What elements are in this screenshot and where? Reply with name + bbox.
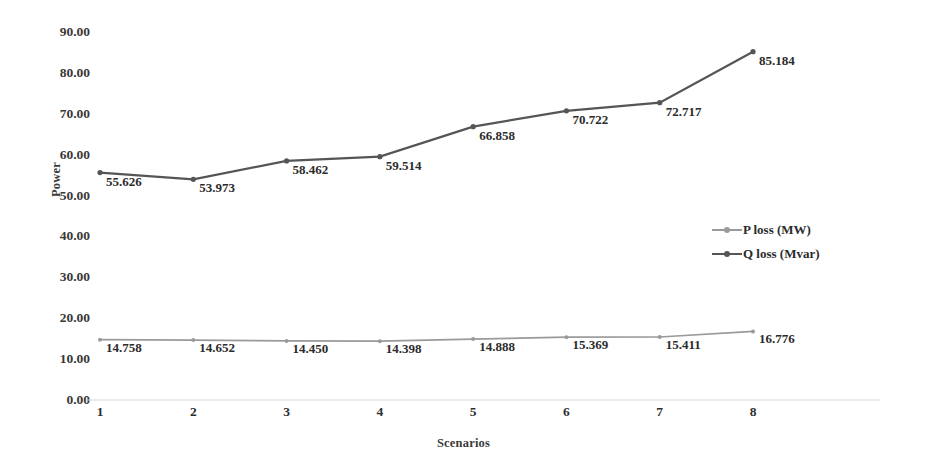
x-axis-tick-label: 7 xyxy=(640,404,680,420)
data-point-marker xyxy=(751,329,755,333)
data-point-label: 15.411 xyxy=(666,338,701,351)
legend-line-icon xyxy=(712,248,742,260)
data-point-label: 14.398 xyxy=(386,342,422,355)
data-point-label: 59.514 xyxy=(386,159,422,172)
series-line xyxy=(100,331,753,341)
data-point-label: 70.722 xyxy=(572,113,608,126)
data-point-marker xyxy=(471,124,476,129)
series-line xyxy=(100,52,753,180)
legend-item[interactable]: Q loss (Mvar) xyxy=(712,242,820,266)
data-point-marker xyxy=(471,337,475,341)
series-p-loss xyxy=(98,329,755,343)
legend-item[interactable]: P loss (MW) xyxy=(712,218,820,242)
data-point-label: 16.776 xyxy=(759,332,795,345)
data-point-marker xyxy=(564,335,568,339)
data-point-label: 53.973 xyxy=(199,181,235,194)
data-point-marker xyxy=(378,339,382,343)
legend-item-label: P loss (MW) xyxy=(743,222,811,238)
chart-legend: P loss (MW)Q loss (Mvar) xyxy=(712,218,820,266)
data-point-marker xyxy=(750,49,755,54)
data-point-label: 14.652 xyxy=(199,341,235,354)
data-point-label: 14.758 xyxy=(106,341,142,354)
data-point-marker xyxy=(191,177,196,182)
data-point-marker xyxy=(657,100,662,105)
data-point-marker xyxy=(564,108,569,113)
data-point-marker xyxy=(191,338,195,342)
data-point-label: 58.462 xyxy=(293,163,329,176)
x-axis-tick-label: 1 xyxy=(80,404,120,420)
legend-item-label: Q loss (Mvar) xyxy=(743,246,820,262)
data-point-marker xyxy=(658,335,662,339)
series-q-loss xyxy=(97,49,755,182)
data-point-marker xyxy=(377,154,382,159)
x-axis-tick-label: 6 xyxy=(546,404,586,420)
data-point-label: 14.888 xyxy=(479,340,515,353)
data-point-label: 72.717 xyxy=(666,105,702,118)
x-axis-title: Scenarios xyxy=(0,436,927,451)
data-point-label: 85.184 xyxy=(759,54,795,67)
x-axis-tick-label: 5 xyxy=(453,404,493,420)
line-chart: Power 0.0010.0020.0030.0040.0050.0060.00… xyxy=(0,0,927,474)
data-point-marker xyxy=(285,339,289,343)
x-axis-tick-label: 3 xyxy=(267,404,307,420)
data-point-label: 14.450 xyxy=(293,342,329,355)
data-point-label: 66.858 xyxy=(479,129,515,142)
x-axis-tick-label: 4 xyxy=(360,404,400,420)
data-point-marker xyxy=(284,158,289,163)
data-point-label: 15.369 xyxy=(572,338,608,351)
data-point-marker xyxy=(97,170,102,175)
data-point-label: 55.626 xyxy=(106,175,142,188)
x-axis-tick-label: 2 xyxy=(173,404,213,420)
x-axis-tick-label: 8 xyxy=(733,404,773,420)
legend-line-icon xyxy=(712,224,742,236)
data-point-marker xyxy=(98,338,102,342)
